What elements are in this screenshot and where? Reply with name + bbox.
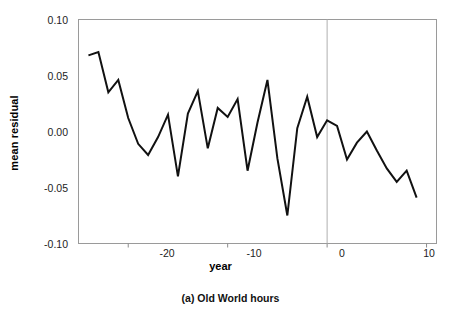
figure-caption: (a) Old World hours (0, 292, 461, 304)
x-tick-marks (128, 244, 426, 248)
x-axis-label-text: year (209, 260, 232, 272)
plot-border (79, 20, 437, 244)
x-axis-label: year (0, 260, 461, 272)
plot-canvas (0, 0, 461, 321)
plot-frame (79, 20, 437, 244)
chart-figure: mean residual 0.10 0.05 0.00 -0.05 -0.10… (0, 0, 461, 321)
